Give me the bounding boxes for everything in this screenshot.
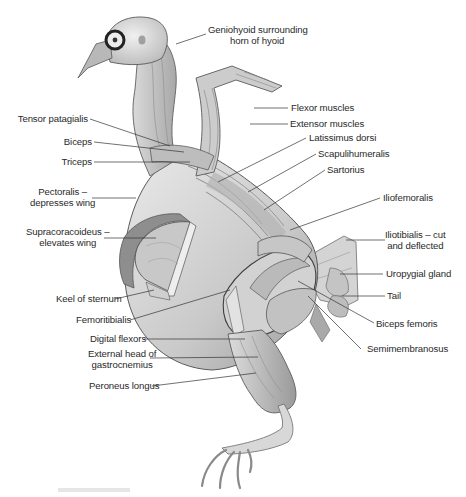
label-femoritibialis: Femoritibialis (76, 314, 131, 325)
label-pectoralis-line2: depresses wing (30, 197, 95, 208)
label-iliofemoralis: Iliofemoralis (383, 192, 433, 203)
label-semimembranosus: Semimembranosus (367, 343, 448, 354)
label-scapulihumeralis: Scapulihumeralis (318, 148, 389, 159)
label-supracoracoideus-line1: Supracoracoideus – (26, 226, 110, 237)
label-latissimus-dorsi: Latissimus dorsi (309, 132, 376, 143)
label-iliotibialis-line1: Iliotibialis – cut (385, 229, 446, 240)
toes (202, 450, 251, 488)
label-geniohyoid-line2: horn of hyoid (208, 35, 308, 46)
figure-caption-cutoff (58, 488, 130, 492)
label-keel-of-sternum: Keel of sternum (56, 293, 122, 304)
label-tensor-patagialis: Tensor patagialis (18, 113, 88, 124)
label-extensor-muscles: Extensor muscles (290, 118, 364, 129)
label-pectoralis: Pectoralis – depresses wing (30, 186, 95, 208)
label-external-head-gastrocnemius: External head of gastrocnemius (88, 348, 156, 370)
label-geniohyoid: Geniohyoid surrounding horn of hyoid (208, 24, 308, 46)
label-digital-flexors: Digital flexors (90, 333, 146, 344)
label-triceps: Triceps (62, 156, 92, 167)
label-flexor-muscles: Flexor muscles (291, 102, 354, 113)
label-iliotibialis: Iliotibialis – cut and deflected (385, 229, 446, 251)
label-geniohyoid-line1: Geniohyoid surrounding (208, 24, 308, 35)
label-supracoracoideus: Supracoracoideus – elevates wing (26, 226, 110, 248)
label-external-head-line1: External head of (88, 348, 156, 359)
label-iliotibialis-line2: and deflected (385, 240, 446, 251)
label-peroneus-longus: Peroneus longus (89, 380, 160, 391)
label-sartorius: Sartorius (327, 164, 365, 175)
label-pectoralis-line1: Pectoralis – (30, 186, 95, 197)
label-uropygial-gland: Uropygial gland (386, 268, 451, 279)
label-tail: Tail (387, 290, 401, 301)
label-biceps: Biceps (64, 136, 92, 147)
label-supracoracoideus-line2: elevates wing (26, 237, 110, 248)
label-biceps-femoris: Biceps femoris (376, 318, 438, 329)
label-external-head-line2: gastrocnemius (88, 359, 156, 370)
